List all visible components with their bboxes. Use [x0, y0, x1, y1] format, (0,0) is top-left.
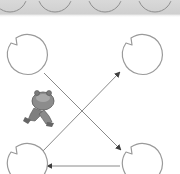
animal-figure-icon	[23, 91, 54, 128]
node-bottom-left[interactable]	[7, 143, 47, 174]
state-diagram	[0, 0, 180, 174]
node-top-right[interactable]	[122, 34, 162, 74]
node-bottom-right[interactable]	[122, 143, 162, 174]
node-top-left[interactable]	[7, 34, 47, 74]
edge-bottom-left-to-top-right	[42, 72, 120, 152]
